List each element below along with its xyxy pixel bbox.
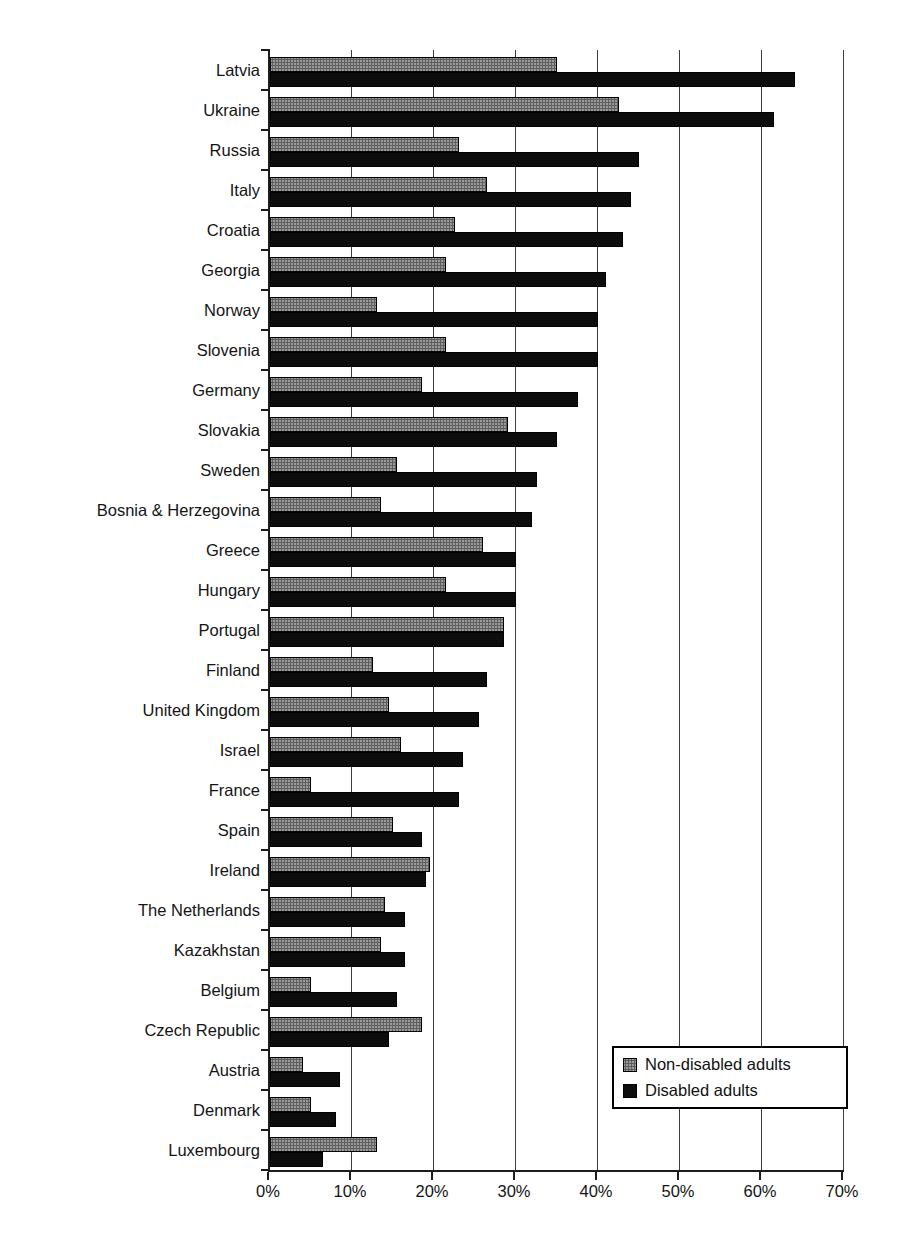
bar-disabled bbox=[270, 912, 405, 927]
x-axis-tick-label: 70% bbox=[802, 1182, 882, 1201]
category-label: Hungary bbox=[0, 570, 260, 610]
category-label: Greece bbox=[0, 530, 260, 570]
legend-item: Disabled adults bbox=[623, 1081, 837, 1100]
y-axis-tick bbox=[261, 729, 270, 731]
bar-disabled bbox=[270, 832, 422, 847]
bar-disabled bbox=[270, 672, 487, 687]
bar-non-disabled bbox=[270, 737, 401, 752]
non-disabled-swatch-icon bbox=[623, 1058, 637, 1072]
x-axis-tick bbox=[513, 1172, 515, 1180]
x-axis-tick bbox=[677, 1172, 679, 1180]
x-axis-tick-label: 40% bbox=[556, 1182, 636, 1201]
bar-disabled bbox=[270, 1072, 340, 1087]
y-axis-tick bbox=[261, 169, 270, 171]
bar-disabled bbox=[270, 152, 639, 167]
category-label: Ukraine bbox=[0, 90, 260, 130]
y-axis-tick bbox=[261, 849, 270, 851]
bar-non-disabled bbox=[270, 577, 446, 592]
bar-non-disabled bbox=[270, 177, 487, 192]
bar-non-disabled bbox=[270, 97, 619, 112]
y-axis-tick bbox=[261, 49, 270, 51]
bar-non-disabled bbox=[270, 417, 508, 432]
bar-disabled bbox=[270, 112, 774, 127]
bar-non-disabled bbox=[270, 337, 446, 352]
category-row: Israel bbox=[270, 730, 844, 770]
y-axis-tick bbox=[261, 609, 270, 611]
bar-disabled bbox=[270, 432, 557, 447]
bar-disabled bbox=[270, 552, 516, 567]
bar-disabled bbox=[270, 712, 479, 727]
category-label: Croatia bbox=[0, 210, 260, 250]
category-label: Belgium bbox=[0, 970, 260, 1010]
category-row: Bosnia & Herzegovina bbox=[270, 490, 844, 530]
y-axis-tick bbox=[261, 1049, 270, 1051]
legend: Non-disabled adultsDisabled adults bbox=[612, 1046, 848, 1109]
category-label: Finland bbox=[0, 650, 260, 690]
legend-label: Disabled adults bbox=[645, 1081, 758, 1100]
category-label: The Netherlands bbox=[0, 890, 260, 930]
x-axis-tick bbox=[759, 1172, 761, 1180]
bar-non-disabled bbox=[270, 137, 459, 152]
bar-disabled bbox=[270, 1032, 389, 1047]
bar-disabled bbox=[270, 392, 578, 407]
category-label: Sweden bbox=[0, 450, 260, 490]
y-axis-tick bbox=[261, 329, 270, 331]
bar-non-disabled bbox=[270, 1017, 422, 1032]
legend-item: Non-disabled adults bbox=[623, 1055, 837, 1074]
legend-label: Non-disabled adults bbox=[645, 1055, 791, 1074]
category-label: Germany bbox=[0, 370, 260, 410]
bar-disabled bbox=[270, 512, 532, 527]
y-axis-tick bbox=[261, 1089, 270, 1091]
bar-non-disabled bbox=[270, 377, 422, 392]
bar-disabled bbox=[270, 72, 795, 87]
disabled-swatch-icon bbox=[623, 1084, 637, 1098]
y-axis-tick bbox=[261, 249, 270, 251]
category-label: France bbox=[0, 770, 260, 810]
bar-disabled bbox=[270, 312, 598, 327]
category-label: Denmark bbox=[0, 1090, 260, 1130]
category-row: Czech Republic bbox=[270, 1010, 844, 1050]
y-axis-tick bbox=[261, 209, 270, 211]
x-axis-tick-label: 50% bbox=[638, 1182, 718, 1201]
category-row: Italy bbox=[270, 170, 844, 210]
y-axis-tick bbox=[261, 889, 270, 891]
category-row: Portugal bbox=[270, 610, 844, 650]
x-axis-tick-label: 30% bbox=[474, 1182, 554, 1201]
category-row: Germany bbox=[270, 370, 844, 410]
bar-non-disabled bbox=[270, 977, 311, 992]
y-axis-tick bbox=[261, 409, 270, 411]
y-axis-tick bbox=[261, 569, 270, 571]
bar-non-disabled bbox=[270, 297, 377, 312]
category-row: Luxembourg bbox=[270, 1130, 844, 1170]
bar-non-disabled bbox=[270, 257, 446, 272]
bar-non-disabled bbox=[270, 497, 381, 512]
category-label: Italy bbox=[0, 170, 260, 210]
y-axis-tick bbox=[261, 449, 270, 451]
category-label: Spain bbox=[0, 810, 260, 850]
x-axis-tick bbox=[595, 1172, 597, 1180]
category-label: Norway bbox=[0, 290, 260, 330]
y-axis-tick bbox=[261, 89, 270, 91]
category-row: Greece bbox=[270, 530, 844, 570]
bar-non-disabled bbox=[270, 697, 389, 712]
category-row: Spain bbox=[270, 810, 844, 850]
bar-disabled bbox=[270, 952, 405, 967]
bar-non-disabled bbox=[270, 1097, 311, 1112]
y-axis-tick bbox=[261, 769, 270, 771]
bar-disabled bbox=[270, 472, 537, 487]
bar-disabled bbox=[270, 1112, 336, 1127]
bar-non-disabled bbox=[270, 57, 557, 72]
bar-non-disabled bbox=[270, 817, 393, 832]
x-axis-tick bbox=[841, 1172, 843, 1180]
y-axis-tick bbox=[261, 129, 270, 131]
category-row: Georgia bbox=[270, 250, 844, 290]
bar-disabled bbox=[270, 1152, 323, 1167]
bar-disabled bbox=[270, 872, 426, 887]
category-row: United Kingdom bbox=[270, 690, 844, 730]
bar-non-disabled bbox=[270, 777, 311, 792]
bar-non-disabled bbox=[270, 617, 504, 632]
y-axis-tick bbox=[261, 289, 270, 291]
category-label: Portugal bbox=[0, 610, 260, 650]
category-row: Finland bbox=[270, 650, 844, 690]
bar-disabled bbox=[270, 192, 631, 207]
